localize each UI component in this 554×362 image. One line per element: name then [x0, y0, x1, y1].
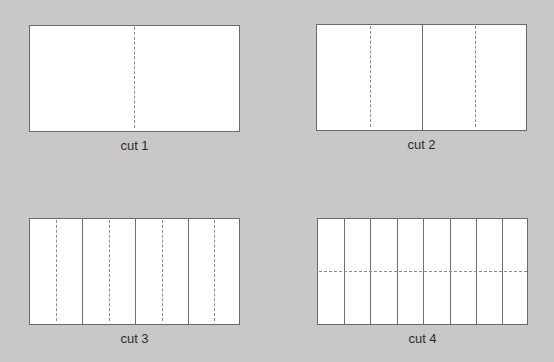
- panel-cut-1: [29, 25, 240, 132]
- cut-line: [82, 219, 83, 324]
- fold-line: [134, 27, 135, 128]
- fold-line-horizontal: [319, 271, 527, 272]
- panel-cut-2: [316, 24, 527, 131]
- fold-line: [109, 220, 110, 321]
- caption-cut-2: cut 2: [316, 137, 527, 152]
- panel-cut-3: [29, 218, 240, 325]
- fold-line: [56, 220, 57, 321]
- cut-line: [188, 219, 189, 324]
- caption-cut-4: cut 4: [317, 331, 528, 346]
- fold-line: [370, 26, 371, 127]
- caption-cut-3: cut 3: [29, 331, 240, 346]
- caption-cut-1: cut 1: [29, 138, 240, 153]
- fold-line: [475, 26, 476, 127]
- panel-cut-4: [317, 218, 528, 325]
- cut-line: [135, 219, 136, 324]
- fold-line: [162, 220, 163, 321]
- fold-line: [214, 220, 215, 321]
- cut-line: [422, 25, 423, 130]
